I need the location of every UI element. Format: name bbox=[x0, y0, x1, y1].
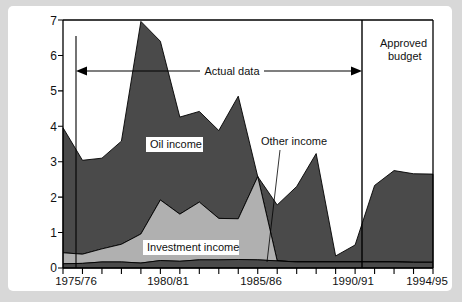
x-tick-label-1975-76: 1975/76 bbox=[55, 275, 97, 287]
approved-budget-label-line1: Approved bbox=[380, 37, 427, 49]
y-tick-label-6: 6 bbox=[50, 49, 57, 63]
x-tick-marks bbox=[63, 268, 433, 274]
oil-income-label-group: Oil income bbox=[146, 137, 203, 152]
other-income-label: Other income bbox=[261, 135, 327, 147]
y-tick-label-5: 5 bbox=[50, 84, 57, 98]
x-tick-label-1990-91: 1990/91 bbox=[332, 275, 374, 287]
income-area-chart[interactable]: 0 1 2 3 4 5 6 7 1975/76 1980/81 1985/86 … bbox=[8, 6, 452, 291]
y-tick-label-0: 0 bbox=[50, 261, 57, 275]
screenshot-root: 0 1 2 3 4 5 6 7 1975/76 1980/81 1985/86 … bbox=[0, 0, 462, 302]
oil-income-label: Oil income bbox=[150, 138, 202, 150]
investment-income-label: Investment income bbox=[147, 241, 239, 253]
x-tick-label-1994-95: 1994/95 bbox=[406, 275, 448, 287]
actual-data-label: Actual data bbox=[204, 65, 260, 77]
y-tick-marks bbox=[58, 20, 63, 268]
approved-budget-label-line2: budget bbox=[388, 50, 422, 62]
y-tick-label-3: 3 bbox=[50, 155, 57, 169]
y-tick-label-2: 2 bbox=[50, 191, 57, 205]
y-tick-label-4: 4 bbox=[50, 120, 57, 134]
y-tick-label-7: 7 bbox=[50, 14, 57, 28]
investment-income-label-group: Investment income bbox=[143, 240, 239, 255]
chart-card: 0 1 2 3 4 5 6 7 1975/76 1980/81 1985/86 … bbox=[8, 6, 452, 291]
x-tick-label-1980-81: 1980/81 bbox=[147, 275, 189, 287]
x-tick-label-1985-86: 1985/86 bbox=[240, 275, 282, 287]
y-tick-label-1: 1 bbox=[50, 226, 57, 240]
